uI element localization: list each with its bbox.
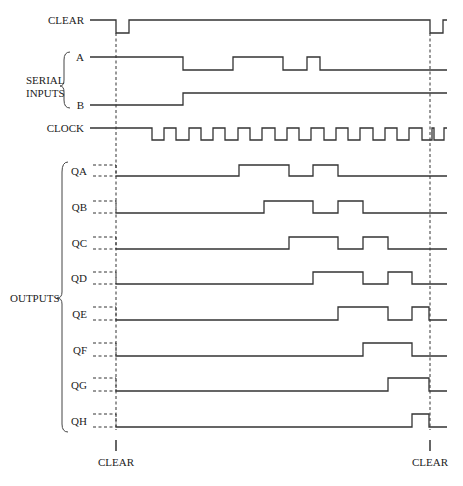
signal-label-qc: QC [72,237,87,249]
waveform-b [90,93,447,105]
waveform-qc [116,237,447,249]
signal-qc: QC [72,237,447,249]
signal-label-b: B [77,99,84,111]
undefined-state-dashes [93,414,116,427]
undefined-state-dashes [93,343,116,356]
signal-label-qf: QF [73,344,87,356]
signal-a: A [76,51,447,70]
waveform-qg [116,378,447,391]
bottom-clear-label-right: CLEAR [412,456,449,468]
signal-qh: QH [71,414,447,427]
signal-label-qb: QB [72,201,87,213]
signal-label-qd: QD [71,272,87,284]
signal-label-a: A [76,51,84,63]
signal-qd: QD [71,272,447,284]
waveform-qb [116,201,447,213]
waveform-clear [90,20,447,33]
bottom-clear-label-left: CLEAR [98,456,135,468]
signal-label-qg: QG [71,379,87,391]
signal-waveforms: CLEARABCLOCKQAQBQCQDQEQFQGQH [47,14,447,427]
undefined-state-dashes [93,201,116,213]
waveform-clock [90,128,447,140]
waveform-qf [116,343,447,356]
signal-qf: QF [73,343,447,356]
waveform-qe [116,307,447,320]
waveform-a [90,57,447,70]
serial-inputs-label-line1: SERIAL [26,74,65,86]
signal-qe: QE [72,307,447,320]
undefined-state-dashes [93,237,116,249]
signal-label-clear: CLEAR [48,14,85,26]
waveform-qa [116,165,447,176]
signal-label-qh: QH [71,415,87,427]
signal-clear: CLEAR [48,14,447,33]
serial-inputs-label-line2: INPUTS [26,87,65,99]
undefined-state-dashes [93,378,116,391]
signal-label-qe: QE [72,308,87,320]
signal-label-clock: CLOCK [47,122,84,134]
signal-qg: QG [71,378,447,391]
timing-diagram: SERIAL INPUTS OUTPUTS CLEARABCLOCKQAQBQC… [0,0,463,486]
signal-clock: CLOCK [47,122,447,140]
undefined-state-dashes [93,307,116,320]
outputs-label: OUTPUTS [10,292,60,304]
undefined-state-dashes [93,272,116,284]
signal-b: B [77,93,447,111]
signal-label-qa: QA [71,165,87,177]
signal-qb: QB [72,201,447,213]
undefined-state-dashes [93,165,116,176]
waveform-qd [116,272,447,284]
waveform-qh [116,414,447,427]
signal-qa: QA [71,165,447,177]
